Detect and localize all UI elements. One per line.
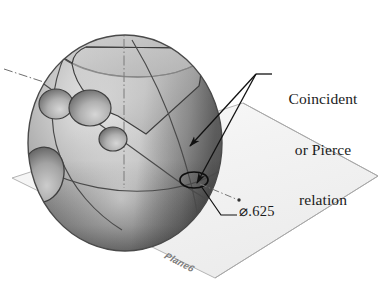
figure-canvas: Coincident or Pierce relation ⌀.625 Plan… <box>0 0 385 286</box>
callout-line-3: relation <box>263 192 383 209</box>
sphere-dimple-upper-left <box>39 89 73 119</box>
sphere-dimple-lower-center <box>99 127 127 151</box>
sphere-dimple-center <box>69 90 111 126</box>
diameter-dimension-label: ⌀.625 <box>239 204 275 220</box>
coincident-or-pierce-relation-label: Coincident or Pierce relation <box>263 58 383 242</box>
callout-line-2: or Pierce <box>263 142 383 159</box>
callout-line-1: Coincident <box>263 91 383 108</box>
